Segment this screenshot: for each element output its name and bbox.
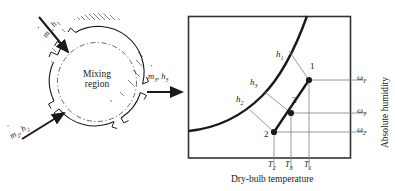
- x-tick-label-T2: T2: [268, 160, 276, 171]
- state-point-1: [306, 77, 312, 83]
- x-tick-label-T3: T3: [285, 160, 293, 171]
- y-axis-title: Absolute humidity: [381, 77, 391, 148]
- y-tick-label-omega2: ω2: [357, 125, 366, 136]
- x-axis-title: Dry-bulb temperature: [231, 175, 314, 185]
- outlet-3-label: m3, h3: [148, 72, 168, 83]
- outlet-3-comma: ,: [157, 71, 159, 81]
- psychrometric-mixing-figure: Mixing region m1, h1 m2, h2 m3, h3: [0, 0, 395, 191]
- y-tick-label-omega3: ω3: [357, 106, 366, 117]
- enthalpy-label-h3: h3: [250, 78, 258, 89]
- enthalpy-label-h1: h1: [276, 50, 284, 61]
- outlet-3-h-sub: 3: [166, 77, 169, 83]
- state-point-2: [271, 129, 277, 135]
- state-label-2: 2: [264, 130, 269, 139]
- mixing-device-schematic: [0, 0, 195, 191]
- outlet-3-mdot-symbol: m: [148, 71, 154, 81]
- x-tick-label-T1: T1: [304, 160, 312, 171]
- state-label-3: 3: [292, 96, 297, 105]
- y-tick-label-omega1: ω1: [357, 73, 366, 84]
- enthalpy-label-h2: h2: [236, 95, 244, 106]
- state-point-3: [288, 110, 294, 116]
- mixing-region-label-line2: region: [67, 80, 127, 90]
- state-label-1: 1: [310, 62, 315, 71]
- mixing-region-label: Mixing region: [67, 70, 127, 90]
